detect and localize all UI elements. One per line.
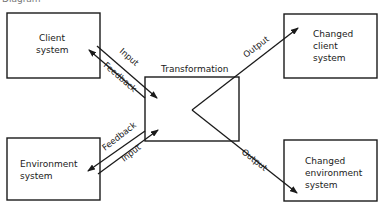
environment-system-label-2: system	[20, 171, 53, 181]
client-system-label-1: Client	[39, 33, 66, 43]
client-input-arrow: Input	[97, 46, 157, 98]
changed-environment-label-2: environment	[305, 168, 363, 178]
environment-input-label: Input	[119, 142, 143, 164]
environment-system-box: Environment system	[7, 138, 100, 200]
changed-client-system-box: Changed client system	[284, 14, 377, 78]
environment-system-label-1: Environment	[20, 159, 78, 169]
client-system-label-2: system	[36, 45, 69, 55]
client-input-label: Input	[118, 46, 142, 68]
transformation-label: Transformation	[160, 64, 229, 74]
changed-environment-system-box: Changed environment system	[284, 140, 377, 201]
changed-environment-label-1: Changed	[305, 156, 345, 166]
environment-input-arrow: Input	[98, 130, 158, 174]
changed-client-label-2: client	[313, 41, 338, 51]
output-bottom-label: Output	[240, 147, 270, 173]
transformation-box: Transformation	[145, 64, 239, 141]
changed-environment-label-3: system	[305, 180, 338, 190]
systems-diagram: Client system Environment system Transfo…	[0, 0, 382, 206]
output-bottom-arrow: Output	[192, 110, 297, 193]
client-system-box: Client system	[7, 13, 100, 78]
changed-client-label-3: system	[313, 53, 346, 63]
output-top-label: Output	[241, 33, 271, 59]
changed-client-label-1: Changed	[313, 29, 353, 39]
